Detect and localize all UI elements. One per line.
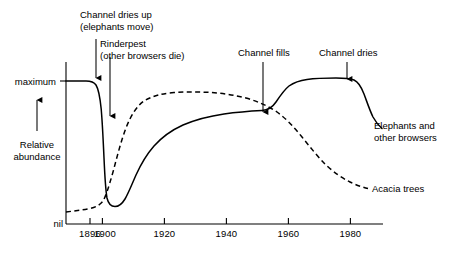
y-axis-labels: maximum nil Relative abundance: [13, 76, 63, 230]
series-label-elephants-line1: Elephants and: [374, 120, 435, 131]
x-tick-labels: 1896 1900 1920 1940 1960 1980: [79, 228, 361, 239]
annotation-rinderpest-line2: (other browsers die): [100, 50, 184, 61]
series-labels: Elephants and other browsers Acacia tree…: [372, 120, 437, 194]
annotation-channel-dries: Channel dries: [319, 47, 378, 58]
x-tick-label-1980: 1980: [339, 228, 361, 239]
y-label-nil: nil: [53, 218, 63, 229]
annotation-channel-fills: Channel fills: [238, 47, 290, 58]
y-title-line2: abundance: [13, 151, 60, 162]
annotation-labels: Channel dries up (elephants move) Rinder…: [80, 9, 378, 61]
axes: [60, 62, 383, 224]
annotation-rinderpest-line1: Rinderpest: [100, 38, 146, 49]
x-tick-label-1920: 1920: [153, 228, 175, 239]
x-tick-label-1960: 1960: [277, 228, 299, 239]
abundance-chart: 1896 1900 1920 1940 1960 1980 maximum ni…: [0, 0, 465, 261]
annotation-channel-dries-up-line2: (elephants move): [80, 21, 153, 32]
series-curves: [66, 78, 382, 212]
series-label-elephants-line2: other browsers: [374, 132, 437, 143]
y-title-line1: Relative: [20, 139, 54, 150]
y-label-maximum: maximum: [15, 76, 56, 87]
x-tick-label-1940: 1940: [215, 228, 237, 239]
series-acacia-trees: [66, 92, 368, 212]
series-label-acacia: Acacia trees: [372, 183, 425, 194]
x-tick-label-1900: 1900: [94, 228, 116, 239]
annotation-channel-dries-up-line1: Channel dries up: [80, 9, 152, 20]
series-elephants-browsers: [66, 78, 382, 207]
figure-container: 1896 1900 1920 1940 1960 1980 maximum ni…: [0, 0, 465, 261]
x-ticks: [90, 218, 350, 224]
